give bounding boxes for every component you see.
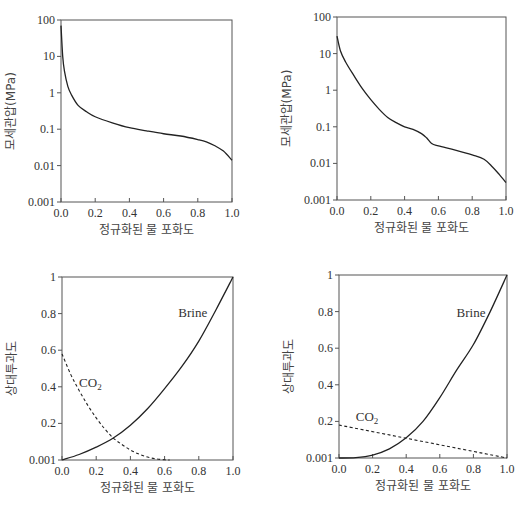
series-brine [339,275,507,458]
y-tick-label: 0.01 [310,156,331,170]
y-tick-label: 100 [313,10,331,24]
y-axis-title: 상대투과도 [282,339,296,394]
x-tick-label: 0.0 [54,206,69,220]
plot-frame [62,277,233,460]
x-tick-label: 0.0 [332,462,347,476]
x-tick-label: 0.8 [466,462,481,476]
y-axis-title: 모세관압(MPa) [4,72,18,150]
series-co2 [339,425,507,458]
figure-canvas: 0.00.20.40.60.81.01001010.10.010.001정규화된… [0,0,524,509]
x-tick-label: 0.4 [397,204,412,218]
series-capillary-pressure [61,26,232,161]
x-tick-label: 0.8 [190,206,205,220]
chart-capillary-pressure-left: 0.00.20.40.60.81.01001010.10.010.001정규화된… [4,13,240,237]
x-tick-label: 0.8 [465,204,480,218]
y-tick-label: 0.1 [40,122,55,136]
y-tick-label: 0.001 [306,451,333,465]
series-annotation: CO2 [79,375,102,392]
chart-capillary-pressure-right: 0.00.20.40.60.81.01001010.10.010.001정규화된… [280,10,514,235]
y-tick-label: 1 [50,270,56,284]
x-tick-label: 0.0 [330,204,345,218]
x-tick-label: 0.6 [157,464,172,478]
y-tick-label: 10 [319,47,331,61]
x-axis-title: 정규화된 물 포화도 [99,223,195,237]
x-tick-label: 0.6 [431,204,446,218]
y-tick-label: 0.8 [41,307,56,321]
x-tick-label: 1.0 [500,462,515,476]
y-axis-title: 모세관압(MPa) [280,70,294,148]
x-tick-label: 1.0 [499,204,514,218]
y-tick-label: 1 [49,86,55,100]
x-tick-label: 0.2 [363,204,378,218]
x-tick-label: 0.4 [122,206,137,220]
y-tick-label: 0.001 [28,195,55,209]
plot-frame [337,17,506,200]
series-annotation: Brine [178,305,207,320]
y-tick-label: 100 [37,13,55,27]
y-tick-label: 0.6 [318,341,333,355]
y-tick-label: 0.8 [318,305,333,319]
x-tick-label: 1.0 [225,206,240,220]
series-capillary-pressure [337,36,506,182]
x-axis-title: 정규화된 물 포화도 [374,221,470,235]
x-tick-label: 0.8 [191,464,206,478]
series-annotation: CO2 [356,409,379,426]
y-tick-label: 0.4 [318,378,333,392]
y-axis-title: 상대투과도 [5,341,19,396]
y-tick-label: 0.1 [316,120,331,134]
x-tick-label: 0.2 [89,464,104,478]
y-tick-label: 0.4 [41,380,56,394]
series-annotation: Brine [457,305,486,320]
x-tick-label: 0.2 [88,206,103,220]
y-tick-label: 0.2 [318,414,333,428]
series-co2 [62,354,170,460]
y-tick-label: 1 [325,83,331,97]
y-tick-label: 10 [43,49,55,63]
plot-frame [339,275,507,458]
x-axis-title: 정규화된 물 포화도 [375,479,471,493]
x-tick-label: 0.4 [123,464,138,478]
x-tick-label: 0.6 [432,462,447,476]
x-tick-label: 1.0 [226,464,241,478]
x-tick-label: 0.0 [55,464,70,478]
y-tick-label: 0.001 [29,453,56,467]
series-brine [62,277,233,460]
x-tick-label: 0.6 [156,206,171,220]
y-tick-label: 0.01 [34,159,55,173]
x-tick-label: 0.2 [365,462,380,476]
x-axis-title: 정규화된 물 포화도 [100,481,196,495]
chart-relative-permeability-right: 0.00.20.40.60.81.010.80.60.40.20.001정규화된… [282,268,515,493]
y-tick-label: 0.6 [41,343,56,357]
y-tick-label: 0.001 [304,193,331,207]
plot-frame [61,20,232,202]
y-tick-label: 0.2 [41,416,56,430]
y-tick-label: 1 [327,268,333,282]
chart-relative-permeability-left: 0.00.20.40.60.81.010.80.60.40.20.001정규화된… [5,270,241,495]
x-tick-label: 0.4 [399,462,414,476]
